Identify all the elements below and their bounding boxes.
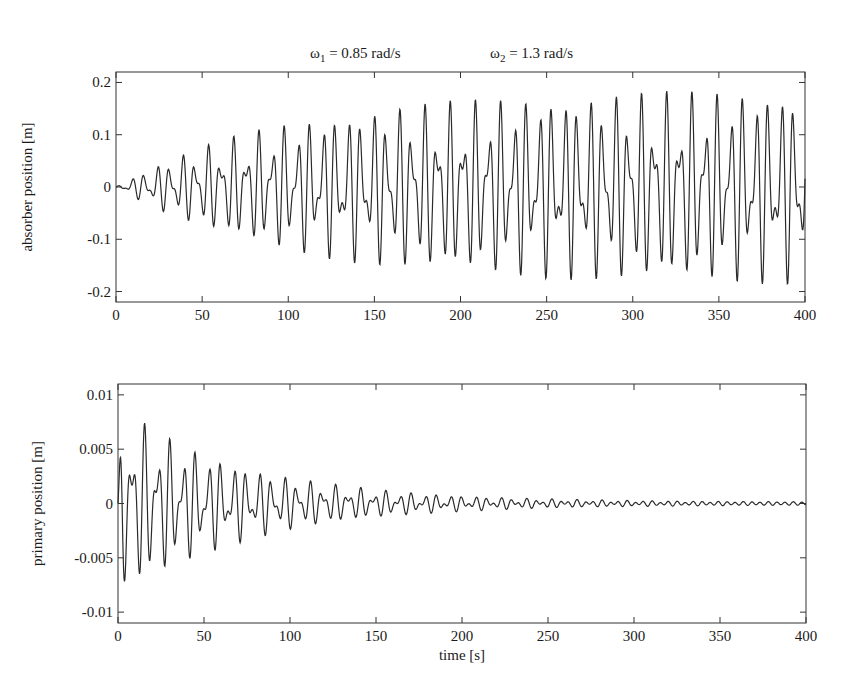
- y-tick-label: -0.2: [87, 284, 111, 300]
- y-tick-label: 0.2: [92, 74, 111, 90]
- y-tick-label: 0: [106, 496, 114, 512]
- x-tick-label: 250: [537, 628, 560, 644]
- x-tick-label: 300: [622, 307, 645, 323]
- primary-axes-ticks: 050100150200250300350400-0.01-0.00500.00…: [74, 384, 817, 644]
- y-tick-label: -0.005: [74, 550, 113, 566]
- x-tick-label: 250: [535, 307, 558, 323]
- x-tick-label: 50: [197, 628, 212, 644]
- absorber-position-line: [116, 91, 805, 284]
- x-tick-label: 150: [363, 307, 386, 323]
- x-tick-label: 400: [795, 628, 818, 644]
- x-tick-label: 100: [277, 307, 300, 323]
- primary-axes-frame: [118, 384, 806, 623]
- x-tick-label: 0: [112, 307, 120, 323]
- time-x-axis-label: time [s]: [439, 647, 485, 663]
- primary-y-axis-label: primary position [m]: [29, 441, 45, 566]
- y-tick-label: 0.1: [92, 127, 111, 143]
- absorber-y-axis-label: absorber position [m]: [19, 122, 35, 251]
- absorber-axes-ticks: 050100150200250300350400-0.2-0.100.10.2: [87, 72, 816, 323]
- primary-position-line: [118, 423, 806, 581]
- y-tick-label: 0.005: [79, 441, 113, 457]
- y-tick-label: -0.01: [82, 604, 113, 620]
- title-omega2: ω2 = 1.3 rad/s: [490, 45, 573, 64]
- x-tick-label: 0: [114, 628, 122, 644]
- primary-position-plot: 050100150200250300350400-0.01-0.00500.00…: [29, 384, 817, 663]
- x-tick-label: 50: [195, 307, 210, 323]
- y-tick-label: -0.1: [87, 231, 111, 247]
- x-tick-label: 100: [279, 628, 302, 644]
- title-omega1: ω1 = 0.85 rad/s: [310, 45, 401, 64]
- x-tick-label: 350: [709, 628, 732, 644]
- absorber-axes-frame: [116, 72, 805, 302]
- x-tick-label: 150: [365, 628, 388, 644]
- y-tick-label: 0: [104, 179, 112, 195]
- x-tick-label: 200: [449, 307, 472, 323]
- x-tick-label: 400: [794, 307, 817, 323]
- x-tick-label: 200: [451, 628, 474, 644]
- y-tick-label: 0.01: [87, 387, 113, 403]
- x-tick-label: 300: [623, 628, 646, 644]
- figure: ω1 = 0.85 rad/s ω2 = 1.3 rad/s 050100150…: [0, 0, 860, 688]
- absorber-position-plot: 050100150200250300350400-0.2-0.100.10.2 …: [19, 72, 816, 323]
- x-tick-label: 350: [708, 307, 731, 323]
